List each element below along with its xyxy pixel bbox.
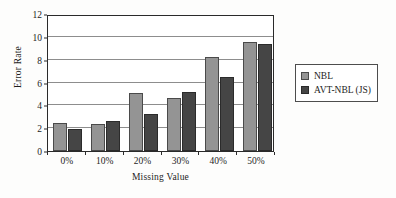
x-axis-tick-mark	[85, 152, 86, 155]
x-axis-ticks: 0%10%20%30%40%50%	[47, 152, 274, 168]
legend-swatch-icon	[301, 72, 309, 80]
x-axis-tick-label: 20%	[134, 156, 151, 166]
x-axis-tick-mark	[274, 152, 275, 155]
x-axis-tick-mark	[236, 152, 237, 155]
bar	[243, 42, 257, 151]
x-axis-title: Missing Value	[47, 172, 274, 182]
x-axis-tick-mark	[123, 152, 124, 155]
legend-label: NBL	[314, 71, 333, 81]
bar	[129, 93, 143, 151]
bar-group	[129, 16, 158, 151]
y-axis-tick-label: 8	[37, 56, 42, 66]
bar	[205, 57, 219, 151]
x-axis-tick-label: 40%	[210, 156, 227, 166]
legend-item: NBL	[301, 69, 371, 83]
y-axis-tick-label: 0	[37, 147, 42, 157]
x-axis-tick-label: 30%	[172, 156, 189, 166]
x-axis-tick-label: 0%	[61, 156, 74, 166]
bar	[182, 92, 196, 151]
bar	[91, 124, 105, 151]
plot-area	[47, 15, 274, 152]
legend-swatch-icon	[301, 86, 309, 94]
x-axis-tick-label: 50%	[247, 156, 264, 166]
chart-legend: NBLAVT-NBL (JS)	[295, 64, 378, 102]
bar-group	[91, 16, 120, 151]
y-axis-ticks: 024681012	[0, 15, 47, 152]
x-axis-tick-mark	[198, 152, 199, 155]
bar	[106, 121, 120, 151]
y-axis-tick-label: 2	[37, 124, 42, 134]
y-axis-tick-label: 4	[37, 101, 42, 111]
x-axis-tick-label: 10%	[96, 156, 113, 166]
bar-series-layer	[48, 16, 273, 151]
bar	[167, 98, 181, 151]
bar	[53, 123, 67, 151]
y-axis-tick-label: 6	[37, 79, 42, 89]
x-axis-tick-mark	[161, 152, 162, 155]
bar	[220, 77, 234, 151]
bar-group	[167, 16, 196, 151]
y-axis-tick-label: 12	[33, 10, 43, 20]
bar-group	[205, 16, 234, 151]
bar-group	[53, 16, 82, 151]
bar-group	[243, 16, 272, 151]
legend-label: AVT-NBL (JS)	[314, 85, 371, 95]
bar	[144, 114, 158, 151]
bar	[68, 129, 82, 151]
x-axis-tick-mark	[47, 152, 48, 155]
bar-chart-figure: Error Rate 024681012 0%10%20%30%40%50% M…	[0, 0, 396, 198]
bar	[258, 44, 272, 151]
y-axis-tick-label: 10	[33, 33, 43, 43]
legend-item: AVT-NBL (JS)	[301, 83, 371, 97]
